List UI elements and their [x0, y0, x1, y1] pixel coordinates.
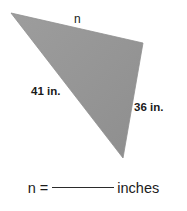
triangle-figure: n 41 in. 36 in.	[0, 0, 187, 170]
worksheet-figure-page: n 41 in. 36 in. n = inches	[0, 0, 187, 211]
side-label-top: n	[74, 13, 81, 25]
answer-variable-label: n =	[28, 181, 49, 196]
answer-prompt: n = inches	[0, 176, 187, 200]
side-label-right: 36 in.	[134, 102, 163, 114]
side-label-left: 41 in.	[31, 86, 60, 98]
answer-unit-label: inches	[117, 181, 159, 196]
triangle-svg	[0, 0, 187, 170]
answer-blank-field[interactable]	[52, 187, 114, 188]
